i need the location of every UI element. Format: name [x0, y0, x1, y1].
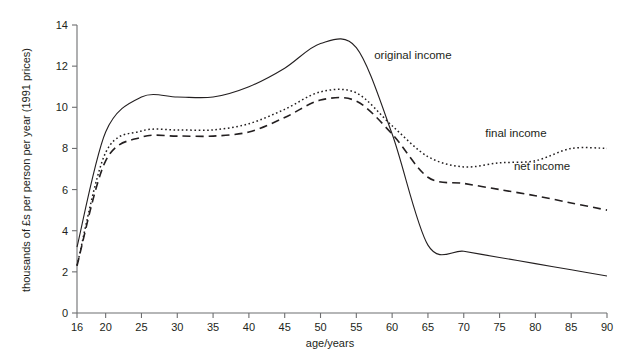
line-chart: 02468101214 1620253035404550556065707580…	[0, 0, 629, 363]
x-tick-label: 80	[529, 321, 541, 333]
x-tick-label: 20	[100, 321, 112, 333]
x-axis-title: age/years	[306, 337, 355, 349]
y-tick-label: 10	[56, 101, 68, 113]
x-tick-label: 40	[243, 321, 255, 333]
annotation-net-income: net income	[514, 160, 570, 172]
series-line-original-income	[77, 39, 607, 276]
x-tick-label: 90	[601, 321, 613, 333]
series-line-net-income	[77, 98, 607, 266]
x-tick-label: 50	[314, 321, 326, 333]
x-tick-label: 65	[422, 321, 434, 333]
x-tick-label: 30	[171, 321, 183, 333]
y-tick-label: 12	[56, 60, 68, 72]
x-axis-ticks	[77, 313, 607, 318]
x-tick-label: 45	[279, 321, 291, 333]
chart-container: 02468101214 1620253035404550556065707580…	[0, 0, 629, 363]
y-tick-label: 8	[62, 142, 68, 154]
y-tick-label: 14	[56, 19, 68, 31]
annotation-original-income: original income	[374, 49, 451, 61]
x-tick-label: 60	[386, 321, 398, 333]
x-tick-label: 55	[350, 321, 362, 333]
annotation-final-income: final income	[485, 127, 546, 139]
y-axis-title: thousands of £s per person per year (199…	[20, 48, 32, 292]
y-axis-tick-labels: 02468101214	[56, 19, 68, 319]
x-axis-tick-labels: 16202530354045505560657075808590	[71, 321, 613, 333]
series-lines	[77, 39, 607, 276]
y-axis-ticks	[72, 25, 77, 313]
series-line-final-income	[77, 89, 607, 265]
y-tick-label: 6	[62, 184, 68, 196]
x-tick-label: 16	[71, 321, 83, 333]
y-tick-label: 0	[62, 307, 68, 319]
x-tick-label: 75	[493, 321, 505, 333]
y-tick-label: 2	[62, 266, 68, 278]
x-tick-label: 25	[135, 321, 147, 333]
x-tick-label: 70	[458, 321, 470, 333]
y-tick-label: 4	[62, 225, 68, 237]
series-annotations: original incomefinal incomenet income	[374, 49, 570, 172]
x-tick-label: 85	[565, 321, 577, 333]
x-tick-label: 35	[207, 321, 219, 333]
